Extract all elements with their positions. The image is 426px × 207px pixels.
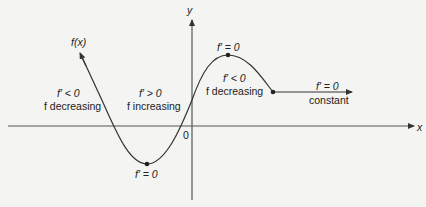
function-label: f(x) bbox=[71, 36, 86, 48]
origin-label: 0 bbox=[183, 129, 189, 141]
maximum-point bbox=[226, 53, 231, 58]
minimum-label: f′ = 0 bbox=[135, 168, 158, 180]
maximum-label: f′ = 0 bbox=[217, 41, 240, 53]
y-axis-label: y bbox=[187, 4, 192, 16]
minimum-point bbox=[145, 162, 150, 167]
right-region-behavior: f decreasing bbox=[206, 85, 263, 97]
constant-region-behavior: constant bbox=[309, 94, 349, 106]
middle-region-derivative: f′ > 0 bbox=[139, 87, 162, 99]
constant-start-point bbox=[271, 90, 276, 95]
middle-region-behavior: f increasing bbox=[127, 100, 181, 112]
left-region-derivative: f′ < 0 bbox=[57, 87, 80, 99]
curve-left-arrow bbox=[80, 53, 86, 66]
x-axis-label: x bbox=[417, 121, 422, 133]
constant-region-derivative: f′ = 0 bbox=[316, 80, 339, 92]
right-region-derivative: f′ < 0 bbox=[223, 72, 246, 84]
left-region-behavior: f decreasing bbox=[44, 100, 101, 112]
